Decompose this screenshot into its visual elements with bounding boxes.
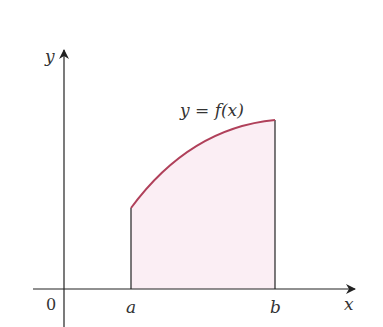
- x-axis-label: x: [344, 294, 354, 314]
- origin-label: 0: [46, 295, 56, 314]
- curve-label: y = f(x): [179, 100, 244, 120]
- y-axis-label: y: [44, 46, 55, 66]
- area-under-curve-diagram: y x 0 a b y = f(x): [0, 0, 383, 327]
- b-label: b: [270, 297, 281, 317]
- shaded-area: [131, 120, 275, 289]
- a-label: a: [126, 297, 136, 317]
